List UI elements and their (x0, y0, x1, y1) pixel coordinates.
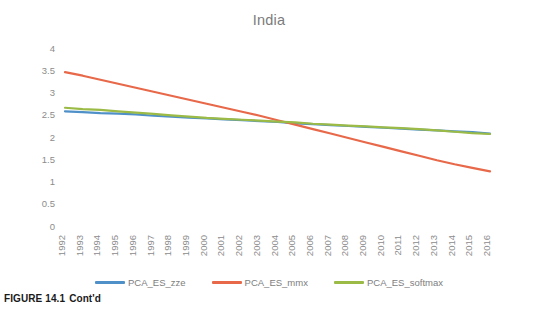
x-axis-tick-label: 1993 (74, 235, 85, 256)
legend-swatch-icon (95, 281, 125, 284)
x-axis-tick-label: 2007 (322, 235, 333, 256)
y-axis-tick-label: 2.5 (42, 109, 55, 120)
x-axis-tick-labels: 1992199319941995199619971998199920002001… (56, 235, 492, 256)
x-axis-tick-label: 1999 (180, 235, 191, 256)
figure-caption: FIGURE 14.1Cont'd (4, 293, 101, 304)
x-axis-tick-label: 1996 (127, 235, 138, 256)
x-axis-tick-label: 2012 (410, 235, 421, 256)
line-chart-plot: 00.511.522.533.54 1992199319941995199619… (0, 0, 538, 290)
y-axis-tick-label: 1 (50, 176, 55, 187)
y-axis-tick-label: 3 (50, 87, 55, 98)
series-line-PCA_ES_softmax (65, 108, 490, 134)
x-axis-tick-label: 2011 (392, 235, 403, 255)
legend-swatch-icon (212, 281, 242, 284)
x-axis-tick-label: 2015 (463, 235, 474, 256)
y-axis-tick-label: 4 (50, 43, 55, 54)
chart-legend: PCA_ES_zzePCA_ES_mmxPCA_ES_softmax (0, 272, 538, 292)
legend-item-label: PCA_ES_zze (128, 277, 186, 288)
legend-item-PCA_ES_softmax[interactable]: PCA_ES_softmax (334, 277, 443, 288)
x-axis-tick-label: 2006 (304, 235, 315, 256)
y-axis-tick-label: 1.5 (42, 154, 55, 165)
series-lines-group (65, 72, 490, 171)
legend-item-label: PCA_ES_softmax (367, 277, 443, 288)
x-axis-tick-label: 1998 (162, 235, 173, 256)
x-axis-tick-label: 2016 (481, 235, 492, 256)
figure-caption-text: Cont'd (69, 293, 101, 304)
x-axis-tick-label: 2000 (198, 235, 209, 256)
x-axis-tick-label: 1994 (91, 235, 102, 256)
x-axis-tick-label: 2009 (357, 235, 368, 256)
y-axis-tick-label: 0 (50, 221, 55, 232)
x-axis-tick-label: 2005 (286, 235, 297, 256)
y-axis-tick-labels: 00.511.522.533.54 (42, 43, 55, 232)
figure-caption-number: FIGURE 14.1 (4, 293, 65, 304)
legend-item-label: PCA_ES_mmx (245, 277, 308, 288)
x-axis-tick-label: 2001 (215, 235, 226, 256)
x-axis-tick-label: 2013 (428, 235, 439, 256)
x-axis-tick-label: 2002 (233, 235, 244, 256)
y-axis-tick-label: 3.5 (42, 65, 55, 76)
x-axis-tick-label: 2014 (446, 235, 457, 256)
y-axis-tick-label: 2 (50, 132, 55, 143)
x-axis-tick-label: 2004 (269, 235, 280, 256)
x-axis-tick-label: 2010 (375, 235, 386, 256)
legend-item-PCA_ES_mmx[interactable]: PCA_ES_mmx (212, 277, 308, 288)
x-axis-tick-label: 1997 (145, 235, 156, 256)
x-axis-tick-label: 1992 (56, 235, 67, 256)
x-axis-tick-label: 2008 (339, 235, 350, 256)
legend-swatch-icon (334, 281, 364, 284)
x-axis-tick-label: 1995 (109, 235, 120, 256)
legend-item-PCA_ES_zze[interactable]: PCA_ES_zze (95, 277, 186, 288)
chart-panel: India 00.511.522.533.54 1992199319941995… (0, 0, 538, 290)
y-axis-tick-label: 0.5 (42, 198, 55, 209)
x-axis-tick-label: 2003 (251, 235, 262, 256)
figure-container: India 00.511.522.533.54 1992199319941995… (0, 0, 538, 311)
